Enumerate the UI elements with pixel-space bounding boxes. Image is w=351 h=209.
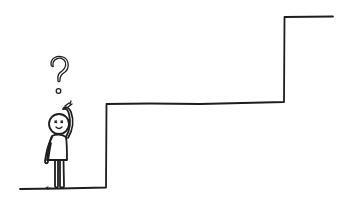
stairs-icon bbox=[20, 17, 333, 190]
question-mark-icon bbox=[51, 56, 68, 93]
confused-person-icon bbox=[45, 101, 73, 189]
illustration-svg bbox=[0, 0, 351, 209]
illustration-canvas: Hand-drawn stick figure scratching head … bbox=[0, 0, 351, 209]
head bbox=[49, 114, 69, 134]
